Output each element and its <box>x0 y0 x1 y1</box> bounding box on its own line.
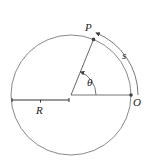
label-r: R <box>35 104 43 116</box>
point-p-dot <box>92 38 96 42</box>
label-s: s <box>122 49 126 61</box>
radius-dimension <box>12 98 69 103</box>
arc-length-arrow <box>96 33 138 95</box>
label-p: P <box>84 21 92 33</box>
label-o: O <box>133 96 141 108</box>
arc-length-diagram: P O s θ R <box>0 0 156 167</box>
label-theta: θ <box>87 76 93 88</box>
